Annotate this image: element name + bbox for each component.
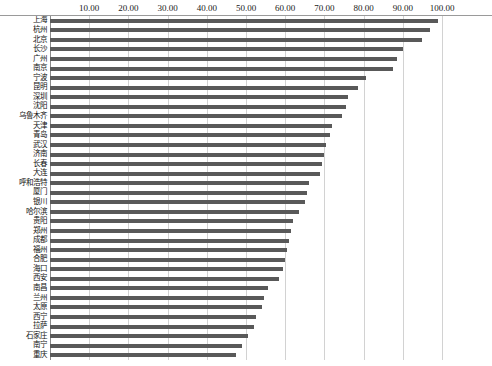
category-label: 厦门: [33, 188, 47, 197]
bar: [50, 57, 397, 61]
bar-row: [50, 112, 442, 122]
x-tick-label-30: 30.00: [157, 3, 177, 13]
category-label: 大连: [33, 169, 47, 178]
category-label: 杭州: [33, 26, 47, 35]
x-tick-label-60: 60.00: [275, 3, 295, 13]
bar: [50, 162, 322, 166]
category-label: 银川: [33, 198, 47, 207]
bar-row: [50, 217, 442, 227]
bar: [50, 124, 332, 128]
bar: [50, 28, 430, 32]
bar: [50, 191, 307, 195]
bar: [50, 172, 320, 176]
category-label: 宁波: [33, 74, 47, 83]
bar-row: [50, 331, 442, 341]
category-label: 沈阳: [33, 102, 47, 111]
x-tick-label-90: 90.00: [393, 3, 413, 13]
bar: [50, 325, 254, 329]
bar-row: [50, 64, 442, 74]
x-tick-label-80: 80.00: [353, 3, 373, 13]
bar-row: [50, 150, 442, 160]
category-label: 成都: [33, 236, 47, 245]
bar-row: [50, 83, 442, 93]
bar-row: [50, 26, 442, 36]
bar-row: [50, 188, 442, 198]
bar-row: [50, 341, 442, 351]
category-label: 广州: [33, 55, 47, 64]
category-label: 拉萨: [33, 322, 47, 331]
bar-row: [50, 293, 442, 303]
bar-row: [50, 159, 442, 169]
bar: [50, 47, 403, 51]
bar-row: [50, 45, 442, 55]
bar-row: [50, 16, 442, 26]
category-label: 合肥: [33, 255, 47, 264]
bar: [50, 229, 291, 233]
bar-row: [50, 236, 442, 246]
x-tick-label-10: 10.00: [79, 3, 99, 13]
category-label: 昆明: [33, 83, 47, 92]
category-label: 西宁: [33, 313, 47, 322]
category-label: 贵阳: [33, 217, 47, 226]
bar-row: [50, 169, 442, 179]
category-label: 上海: [33, 16, 47, 25]
bar: [50, 86, 358, 90]
bar-row: [50, 121, 442, 131]
bar-row: [50, 255, 442, 265]
bar-rows: [50, 16, 442, 360]
category-label: 重庆: [33, 351, 47, 360]
bar: [50, 267, 283, 271]
category-label: 长沙: [33, 45, 47, 54]
category-label: 南京: [33, 64, 47, 73]
x-tick-label-70: 70.00: [314, 3, 334, 13]
category-label: 北京: [33, 36, 47, 45]
bar-row: [50, 131, 442, 141]
bar: [50, 296, 264, 300]
bar-row: [50, 92, 442, 102]
bar-row: [50, 264, 442, 274]
category-label: 武汉: [33, 141, 47, 150]
x-tick-label-20: 20.00: [118, 3, 138, 13]
bar-row: [50, 102, 442, 112]
bar: [50, 76, 366, 80]
bar: [50, 219, 293, 223]
bar-row: [50, 322, 442, 332]
bar: [50, 286, 268, 290]
bar: [50, 105, 346, 109]
category-label: 天津: [33, 122, 47, 131]
bar-row: [50, 245, 442, 255]
bar: [50, 19, 438, 23]
bar-row: [50, 312, 442, 322]
bar: [50, 133, 330, 137]
category-label: 西安: [33, 274, 47, 283]
plot-area: [50, 16, 442, 360]
bar: [50, 277, 279, 281]
bar: [50, 143, 326, 147]
bar-row: [50, 207, 442, 217]
bar-row: [50, 303, 442, 313]
bar: [50, 248, 287, 252]
gridline-100: [442, 16, 443, 360]
category-label: 太原: [33, 303, 47, 312]
bar: [50, 315, 256, 319]
bar-row: [50, 350, 442, 360]
bar: [50, 353, 236, 357]
bar: [50, 95, 348, 99]
category-axis-labels: 上海杭州北京长沙广州南京宁波昆明深圳沈阳乌鲁木齐天津青岛武汉济南长春大连呼和浩特…: [0, 16, 50, 360]
category-label: 哈尔滨: [26, 208, 47, 217]
category-label: 南宁: [33, 341, 47, 350]
bar: [50, 210, 299, 214]
category-label: 青岛: [33, 131, 47, 140]
category-label: 郑州: [33, 227, 47, 236]
bar: [50, 344, 242, 348]
x-tick-label-50: 50.00: [236, 3, 256, 13]
bar-row: [50, 284, 442, 294]
bar-row: [50, 35, 442, 45]
bar-row: [50, 226, 442, 236]
bar: [50, 114, 342, 118]
bar: [50, 153, 324, 157]
bar: [50, 334, 248, 338]
bar-row: [50, 73, 442, 83]
bar: [50, 305, 262, 309]
